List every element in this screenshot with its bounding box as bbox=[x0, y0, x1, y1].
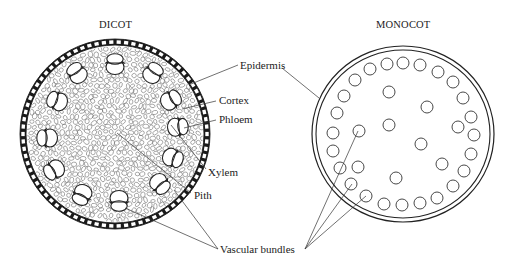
vascular-bundle bbox=[383, 119, 395, 131]
monocot-inner-ring bbox=[316, 50, 490, 218]
vascular-bundle bbox=[106, 54, 124, 75]
vascular-bundle bbox=[415, 138, 427, 150]
vascular-bundle bbox=[378, 198, 390, 210]
vascular-bundle bbox=[331, 107, 343, 119]
vascular-bundle bbox=[396, 199, 408, 211]
vascular-bundle bbox=[37, 129, 58, 147]
monocot-title: MONOCOT bbox=[376, 20, 431, 31]
vascular-bundle bbox=[364, 63, 376, 75]
stem-cross-section-diagram bbox=[0, 0, 513, 264]
vascular-bundle bbox=[468, 129, 480, 141]
vascular-bundle bbox=[390, 172, 402, 184]
vascular-bundle bbox=[432, 66, 444, 78]
monocot-stem bbox=[312, 46, 494, 222]
vascular-bundle bbox=[338, 90, 350, 102]
vascular-bundle bbox=[465, 111, 477, 123]
vascular-bundle bbox=[436, 158, 448, 170]
vascular-bundle bbox=[465, 148, 477, 160]
epidermis-leader-dicot bbox=[191, 65, 238, 84]
monocot-vascular-bundles bbox=[327, 57, 480, 211]
dicot-title: DICOT bbox=[99, 20, 132, 31]
vascular-bundle bbox=[447, 180, 459, 192]
epidermis-leader-monocot bbox=[282, 68, 319, 98]
label-phloem: Phloem bbox=[219, 114, 253, 125]
vascular-bundle bbox=[414, 59, 426, 71]
vascular-bundle bbox=[397, 57, 409, 69]
vascular-leader-5 bbox=[305, 196, 366, 249]
label-pith: Pith bbox=[194, 190, 212, 201]
vascular-bundle bbox=[458, 165, 470, 177]
vascular-bundle bbox=[345, 178, 357, 190]
vascular-leader-1 bbox=[125, 208, 218, 249]
label-xylem: Xylem bbox=[208, 167, 238, 178]
vascular-bundle bbox=[383, 86, 395, 98]
vascular-bundle bbox=[447, 76, 459, 88]
label-cortex: Cortex bbox=[219, 95, 249, 106]
label-vascular-bundles: Vascular bundles bbox=[220, 244, 295, 255]
vascular-bundle bbox=[334, 162, 346, 174]
vascular-bundle bbox=[349, 74, 361, 86]
vascular-bundle bbox=[64, 59, 91, 86]
vascular-bundle bbox=[352, 161, 364, 173]
label-epidermis: Epidermis bbox=[240, 60, 285, 71]
vascular-bundle bbox=[70, 182, 95, 208]
vascular-bundle bbox=[353, 125, 365, 137]
vascular-bundle bbox=[421, 101, 433, 113]
vascular-bundle bbox=[327, 145, 339, 157]
vascular-bundle bbox=[381, 58, 393, 70]
vascular-bundle bbox=[457, 92, 469, 104]
vascular-bundle bbox=[327, 127, 339, 139]
vascular-bundle bbox=[452, 121, 464, 133]
vascular-leader-4 bbox=[305, 184, 352, 249]
vascular-bundle bbox=[431, 192, 443, 204]
vascular-bundle bbox=[414, 197, 426, 209]
vascular-bundle bbox=[146, 170, 173, 197]
